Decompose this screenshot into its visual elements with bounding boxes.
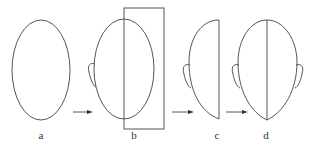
panel-b-rectangle <box>124 8 164 129</box>
panel-b-label: b <box>131 129 137 141</box>
panel-d-label: d <box>263 129 269 141</box>
panel-a-oval <box>12 20 70 120</box>
panel-c-half-face <box>189 20 219 119</box>
arrow-icon <box>226 110 248 114</box>
face-construction-diagram: a b c d <box>0 0 312 156</box>
arrow-icon <box>172 110 194 114</box>
panel-a-label: a <box>39 129 44 141</box>
panel-c-label: c <box>215 129 220 141</box>
arrow-icon <box>73 110 93 114</box>
